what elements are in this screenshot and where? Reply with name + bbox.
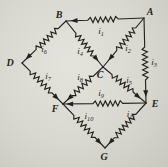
branch-i1-current-arrow-icon [71,18,78,23]
branch-i10-current-label: i10 [85,111,95,122]
branch-i8-current-arrow-icon [67,94,74,101]
branch-i1-current-label: i1 [98,26,104,37]
branch-i3-current-label: i3 [151,57,157,68]
branch-i1-wire-resistor [66,17,144,23]
branch-i7-current-label: i7 [45,71,52,82]
branch-i4-current-label: i4 [77,46,83,57]
branch-i8-current-label: i8 [77,72,84,83]
node-B-label: B [55,9,63,20]
branch-i9-current-label: i9 [98,88,105,99]
scanned-page: i1i2i3i4i5i6i7i8i9i10i11ABCDEFG [0,0,168,167]
node-F-label: F [51,103,59,114]
branch-i9-current-arrow-icon [66,101,73,106]
branch-i11-current-label: i11 [127,109,135,120]
branch-i9-wire-resistor [63,101,146,107]
node-E-label: E [151,98,159,109]
branch-i5-current-label: i5 [126,75,132,86]
node-D-label: D [5,57,13,68]
circuit-diagram-svg: i1i2i3i4i5i6i7i8i9i10i11ABCDEFG [0,0,168,167]
node-C-label: C [97,69,104,80]
branch-i2-current-label: i2 [125,43,132,54]
branch-i6-current-label: i6 [41,44,48,55]
node-A-label: A [146,6,154,17]
node-G-label: G [100,151,108,162]
branch-i3-current-arrow-icon [143,90,148,97]
